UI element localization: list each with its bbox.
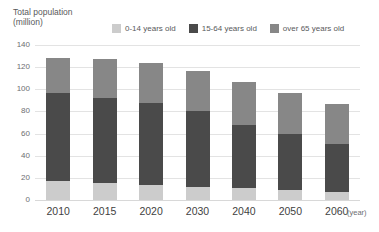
bar-segment	[186, 71, 210, 112]
bar-segment	[325, 104, 349, 144]
bar-segment	[325, 144, 349, 193]
bar-segment	[93, 59, 117, 98]
legend-item-label: 0-14 years old	[125, 24, 176, 33]
x-axis-unit-label: (year)	[347, 208, 367, 217]
x-axis-tick-label: 2050	[279, 205, 302, 217]
bar-group: 2010	[46, 58, 70, 200]
legend-item: over 65 years old	[270, 24, 344, 33]
bar-group: 2030	[186, 71, 210, 201]
bar-segment	[93, 183, 117, 200]
y-axis-tick-label: 40	[21, 152, 30, 160]
bar-segment	[186, 111, 210, 187]
x-axis-tick-label: 2030	[186, 205, 209, 217]
plot-area: 020406080100120140 201020152020203020402…	[35, 45, 360, 200]
y-axis-tick-label: 20	[21, 174, 30, 182]
legend-item-label: 15-64 years old	[202, 24, 257, 33]
y-axis-title: Total population (million)	[13, 7, 73, 27]
x-axis-tick-label: 2010	[47, 205, 70, 217]
bar-segment	[46, 58, 70, 92]
bar-segment	[325, 192, 349, 200]
x-axis-tick-label: 2015	[93, 205, 116, 217]
x-axis-tick-label: 2020	[139, 205, 162, 217]
y-axis-tick-label: 140	[17, 41, 30, 49]
bar-group: 2060	[325, 104, 349, 200]
y-axis-tick-label: 100	[17, 85, 30, 93]
bar-segment	[232, 125, 256, 189]
legend-swatch-icon	[270, 24, 279, 33]
legend-item: 15-64 years old	[189, 24, 257, 33]
bar-segment	[232, 188, 256, 200]
population-stacked-bar-chart: Total population (million) 0-14 years ol…	[0, 0, 379, 232]
x-axis-tick-label: 2060	[325, 205, 348, 217]
bar-segment	[93, 98, 117, 183]
bar-segment	[186, 187, 210, 200]
bar-group: 2050	[278, 93, 302, 200]
y-axis-tick-label: 80	[21, 107, 30, 115]
bar-segment	[46, 181, 70, 200]
y-axis-tick-label: 0	[26, 196, 30, 204]
bar-segment	[278, 134, 302, 190]
bar-series-container: 2010201520202030204020502060	[35, 45, 360, 200]
bar-segment	[278, 93, 302, 134]
y-axis-title-line1: Total population	[13, 7, 73, 17]
bar-segment	[46, 93, 70, 182]
gridline	[35, 200, 360, 201]
x-axis-tick-label: 2040	[232, 205, 255, 217]
bar-segment	[232, 82, 256, 125]
bar-segment	[139, 185, 163, 201]
legend-item-label: over 65 years old	[283, 24, 344, 33]
bar-segment	[139, 103, 163, 184]
y-axis-tick-label: 120	[17, 63, 30, 71]
y-axis-tick-label: 60	[21, 130, 30, 138]
legend-item: 0-14 years old	[112, 24, 176, 33]
legend-swatch-icon	[189, 24, 198, 33]
legend-swatch-icon	[112, 24, 121, 33]
bar-segment	[278, 190, 302, 200]
bar-group: 2020	[139, 63, 163, 200]
bar-group: 2015	[93, 59, 117, 200]
bar-group: 2040	[232, 82, 256, 200]
y-axis-title-unit: (million)	[13, 17, 73, 27]
bar-segment	[139, 63, 163, 103]
chart-legend: 0-14 years old15-64 years oldover 65 yea…	[112, 24, 344, 33]
